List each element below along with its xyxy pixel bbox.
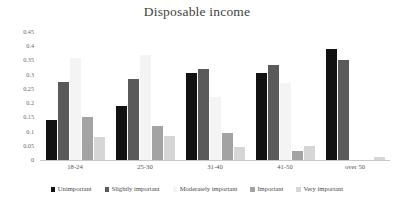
legend-label: Very important [303,186,343,193]
legend-swatch-icon [296,187,301,192]
bar[interactable] [82,117,93,160]
bar[interactable] [268,65,279,160]
bar[interactable] [234,147,245,160]
y-axis-tick: 0.1 [26,128,34,134]
bar[interactable] [186,73,197,160]
bar[interactable] [116,106,127,160]
legend-label: Moderately important [180,186,238,193]
y-axis-tick: 0.45 [23,29,34,35]
bar[interactable] [304,146,315,160]
y-axis-tick: 0 [31,157,34,163]
x-axis-label: 31-40 [180,163,250,170]
legend-swatch-icon [173,187,178,192]
legend-item[interactable]: Important [250,186,283,193]
bar[interactable] [140,55,151,160]
bar[interactable] [46,120,57,160]
bar[interactable] [94,137,105,160]
bar-group [180,32,250,160]
y-axis-tick: 0.15 [23,114,34,120]
x-axis-labels: 18-2425-3031-4041-50over 50 [40,163,390,170]
y-axis-tick: 0.25 [23,86,34,92]
legend-item[interactable]: Unimportant [51,186,92,193]
bar[interactable] [152,126,163,160]
legend-swatch-icon [250,187,255,192]
legend-item[interactable]: Very important [296,186,343,193]
bar[interactable] [70,58,81,160]
bar-group [320,32,390,160]
y-axis: 0.450.40.350.30.250.20.150.10.050 [0,32,36,160]
legend-label: Important [257,186,283,193]
bar[interactable] [338,60,349,160]
bar[interactable] [256,73,267,160]
bar[interactable] [164,136,175,160]
plot-area [40,32,390,160]
legend-item[interactable]: Slightly important [105,186,160,193]
bar-group [40,32,110,160]
legend-swatch-icon [51,187,56,192]
x-axis-label: over 50 [320,163,390,170]
chart-legend: UnimportantSlightly importantModerately … [0,186,394,193]
bar[interactable] [222,133,233,160]
x-axis-label: 25-30 [110,163,180,170]
y-axis-tick: 0.2 [26,100,34,106]
bar[interactable] [58,82,69,160]
bar-group [250,32,320,160]
x-axis-label: 18-24 [40,163,110,170]
y-axis-tick: 0.4 [26,43,34,49]
bar[interactable] [128,79,139,160]
legend-swatch-icon [105,187,110,192]
y-axis-tick: 0.35 [23,57,34,63]
bar-group [110,32,180,160]
disposable-income-chart: Disposable income 0.450.40.350.30.250.20… [0,0,394,209]
bar[interactable] [210,97,221,160]
bar[interactable] [292,151,303,160]
bar[interactable] [280,83,291,160]
x-axis-line [40,160,390,161]
bar[interactable] [198,69,209,160]
legend-label: Slightly important [112,186,160,193]
bar-groups [40,32,390,160]
y-axis-tick: 0.05 [23,143,34,149]
legend-label: Unimportant [58,186,92,193]
legend-item[interactable]: Moderately important [173,186,238,193]
x-axis-label: 41-50 [250,163,320,170]
y-axis-tick: 0.3 [26,72,34,78]
bar[interactable] [326,49,337,160]
chart-title: Disposable income [0,4,394,20]
